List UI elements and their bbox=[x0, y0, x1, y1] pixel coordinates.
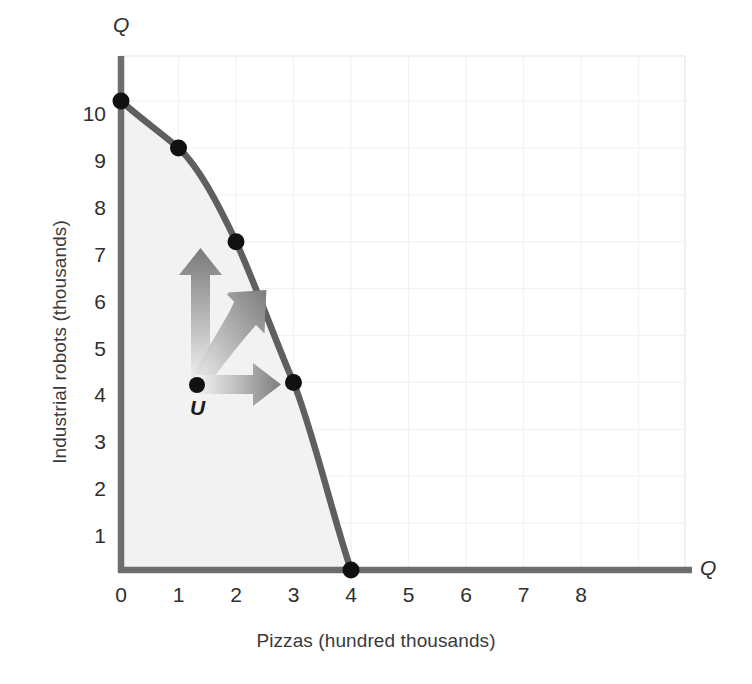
ppf-chart-svg bbox=[0, 0, 752, 684]
point-u-label: U bbox=[190, 396, 205, 420]
data-point-2-7 bbox=[228, 233, 245, 250]
y-axis-q-symbol: Q bbox=[113, 13, 129, 37]
data-point-1-9 bbox=[170, 139, 187, 156]
x-tick-label-5: 5 bbox=[389, 583, 429, 607]
x-tick-label-2: 2 bbox=[216, 583, 256, 607]
x-axis-title: Pizzas (hundred thousands) bbox=[0, 630, 752, 652]
x-tick-label-3: 3 bbox=[274, 583, 314, 607]
point-u-marker bbox=[189, 377, 205, 393]
data-point-3-4 bbox=[285, 374, 302, 391]
data-point-4-0 bbox=[343, 562, 360, 579]
x-tick-label-6: 6 bbox=[446, 583, 486, 607]
x-tick-label-4: 4 bbox=[331, 583, 371, 607]
data-point-0-10 bbox=[113, 93, 130, 110]
chart-container: Q Q 1 2 3 4 5 6 7 8 9 10 0 1 2 3 4 5 6 7… bbox=[0, 0, 752, 684]
x-tick-label-7: 7 bbox=[504, 583, 544, 607]
y-axis-title: Industrial robots (thousands) bbox=[40, 0, 80, 684]
x-tick-label-0: 0 bbox=[101, 583, 141, 607]
x-tick-label-8: 8 bbox=[561, 583, 601, 607]
x-tick-label-1: 1 bbox=[159, 583, 199, 607]
x-axis-q-symbol: Q bbox=[700, 556, 716, 580]
